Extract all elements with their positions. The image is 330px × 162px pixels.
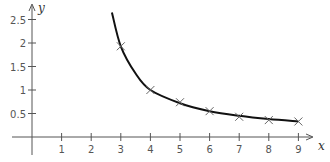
fitted-curve bbox=[112, 12, 298, 121]
y-tick-label: 2.5 bbox=[10, 15, 26, 26]
x-tick-label: 1 bbox=[58, 144, 64, 155]
y-tick-label: 1.5 bbox=[10, 62, 26, 73]
x-tick-label: 7 bbox=[236, 144, 242, 155]
y-axis-label: y bbox=[37, 1, 45, 15]
axes: xy1234567890.511.522.5 bbox=[10, 1, 325, 155]
y-tick-label: 0.5 bbox=[10, 109, 26, 120]
y-tick-label: 2 bbox=[20, 38, 26, 49]
x-tick-label: 6 bbox=[206, 144, 212, 155]
x-tick-label: 9 bbox=[295, 144, 301, 155]
x-tick-label: 8 bbox=[266, 144, 272, 155]
x-tick-label: 3 bbox=[118, 144, 124, 155]
x-axis-label: x bbox=[318, 139, 325, 153]
x-tick-label: 2 bbox=[88, 144, 94, 155]
y-tick-label: 1 bbox=[20, 85, 26, 96]
cross-marker-icon bbox=[146, 86, 154, 94]
x-tick-label: 4 bbox=[147, 144, 153, 155]
chart: xy1234567890.511.522.5 bbox=[0, 0, 330, 162]
x-tick-label: 5 bbox=[177, 144, 183, 155]
